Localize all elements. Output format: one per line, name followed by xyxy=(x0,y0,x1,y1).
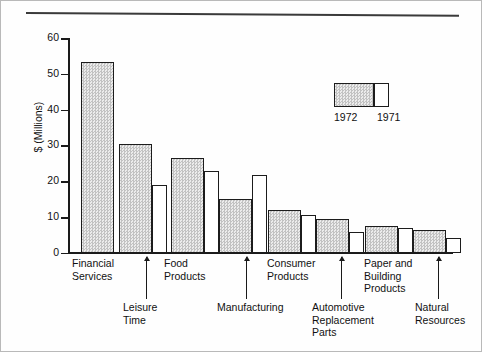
bar-1972-financial-services xyxy=(81,62,114,253)
y-axis-labels: 60 50 40 30 20 10 0 $ (Millions) xyxy=(23,1,59,352)
bar-1971-manufacturing xyxy=(252,175,267,253)
bar-series-container xyxy=(68,38,453,253)
bar-1971-paper-and-building-products xyxy=(398,228,413,253)
bar-1971-leisure-time xyxy=(152,185,167,253)
bar-1971-automotive-replacement-parts xyxy=(349,232,364,254)
bar-1972-food-products xyxy=(171,158,204,253)
leader-automotive-replacement-parts xyxy=(341,257,342,299)
xlabel-natural-resources: Natural Resources xyxy=(415,301,465,326)
bar-chart-plot: 60 50 40 30 20 10 0 $ (Millions) 1972 19… xyxy=(1,1,482,352)
xlabel-manufacturing: Manufacturing xyxy=(217,301,284,314)
leader-leisure-time xyxy=(146,257,147,299)
chart-legend: 1972 1971 xyxy=(334,83,389,123)
leader-natural-resources xyxy=(438,257,439,299)
xlabel-food-products: Food Products xyxy=(164,257,205,282)
y-tick-0 xyxy=(61,253,69,255)
y-label-10: 10 xyxy=(31,211,59,221)
xlabel-automotive-replacement-parts: Automotive Replacement Parts xyxy=(312,301,374,339)
y-axis-title: $ (Millions) xyxy=(32,79,44,175)
y-label-50: 50 xyxy=(31,68,59,78)
bar-1971-natural-resources xyxy=(446,238,461,253)
leader-manufacturing xyxy=(246,257,247,299)
bar-1971-food-products xyxy=(204,171,219,253)
chart-page: 60 50 40 30 20 10 0 $ (Millions) 1972 19… xyxy=(0,0,482,352)
legend-label-1972: 1972 xyxy=(334,111,357,123)
xlabel-consumer-products: Consumer Products xyxy=(267,257,315,282)
legend-swatch-1972 xyxy=(334,83,374,107)
xlabel-paper-and-building-products: Paper and Building Products xyxy=(364,257,412,295)
bar-1972-paper-and-building-products xyxy=(365,226,398,253)
bar-1972-automotive-replacement-parts xyxy=(316,219,349,253)
bar-1972-natural-resources xyxy=(413,230,446,253)
y-label-60: 60 xyxy=(31,32,59,42)
bar-1972-consumer-products xyxy=(268,210,301,253)
bar-1971-consumer-products xyxy=(301,215,316,253)
legend-label-1971: 1971 xyxy=(377,111,400,123)
y-label-0: 0 xyxy=(31,247,59,257)
legend-swatch-1971 xyxy=(374,83,389,107)
bar-1972-leisure-time xyxy=(119,144,152,253)
xlabel-leisure-time: Leisure Time xyxy=(123,301,157,326)
y-label-20: 20 xyxy=(31,175,59,185)
bar-1972-manufacturing xyxy=(219,199,252,253)
xlabel-financial-services: Financial Services xyxy=(72,257,114,282)
